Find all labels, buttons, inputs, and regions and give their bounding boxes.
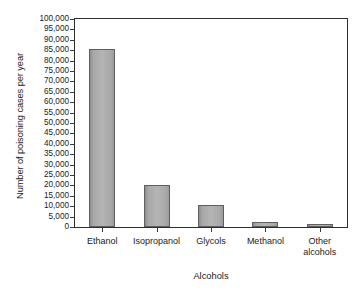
y-axis-tick-label: 100,000 <box>22 15 69 23</box>
y-axis-tick-label: 15,000 <box>22 192 69 200</box>
y-axis-tick-mark <box>70 19 74 20</box>
bars-container <box>75 19 347 227</box>
y-axis-tick-label: 25,000 <box>22 171 69 179</box>
y-axis-tick-label: 30,000 <box>22 161 69 169</box>
y-axis-tick-mark <box>70 81 74 82</box>
y-axis-tick-labels: 05,00010,00015,00020,00025,00030,00035,0… <box>22 14 69 228</box>
y-axis-tick-label: 10,000 <box>22 202 69 210</box>
y-axis-tick-mark <box>70 175 74 176</box>
y-axis-tick-label: 60,000 <box>22 98 69 106</box>
y-axis-tick-label: 80,000 <box>22 57 69 65</box>
y-axis-tick-mark <box>70 206 74 207</box>
y-axis-tick-mark <box>70 196 74 197</box>
x-axis-tick-label-line: Other <box>282 236 358 247</box>
x-axis-title: Alcohols <box>74 270 348 282</box>
y-axis-tick-label: 35,000 <box>22 150 69 158</box>
y-axis-tick-mark <box>70 50 74 51</box>
y-axis-tick-mark <box>70 113 74 114</box>
y-axis-tick-label: 20,000 <box>22 181 69 189</box>
x-axis-tick-label: Otheralcohols <box>282 236 358 258</box>
y-axis-tick-mark <box>70 71 74 72</box>
y-axis-tick-mark <box>70 133 74 134</box>
bar <box>89 49 115 227</box>
y-axis-tick-mark <box>70 92 74 93</box>
y-axis-tick-mark <box>70 144 74 145</box>
y-axis-tick-mark <box>70 154 74 155</box>
y-axis-tick-label: 50,000 <box>22 119 69 127</box>
y-axis-tick-label: 45,000 <box>22 129 69 137</box>
x-axis-tick-mark <box>265 228 266 232</box>
y-axis-tick-mark <box>70 61 74 62</box>
y-axis-tick-label: 75,000 <box>22 67 69 75</box>
y-axis-tick-label: 70,000 <box>22 77 69 85</box>
y-axis-tick-label: 40,000 <box>22 140 69 148</box>
x-axis-tick-mark <box>211 228 212 232</box>
y-axis-tick-mark <box>70 40 74 41</box>
y-axis-tick-mark <box>70 123 74 124</box>
bar <box>144 185 170 227</box>
y-axis-tick-label: 55,000 <box>22 109 69 117</box>
y-axis-tick-mark <box>70 29 74 30</box>
x-axis-tick-label-line: alcohols <box>282 247 358 258</box>
bar <box>307 224 333 227</box>
y-axis-tick-mark <box>70 227 74 228</box>
y-axis-tick-mark <box>70 102 74 103</box>
y-axis-tick-mark <box>70 185 74 186</box>
bar <box>252 222 278 227</box>
y-axis-tick-label: 5,000 <box>22 213 69 221</box>
bar <box>198 205 224 227</box>
y-axis-tick-label: 85,000 <box>22 46 69 54</box>
x-axis-tick-mark <box>157 228 158 232</box>
x-axis-tick-mark <box>102 228 103 232</box>
y-axis-tick-label: 90,000 <box>22 36 69 44</box>
y-axis-tick-label: 95,000 <box>22 25 69 33</box>
y-axis-tick-mark <box>70 165 74 166</box>
y-axis-tick-mark <box>70 217 74 218</box>
x-axis-tick-mark <box>320 228 321 232</box>
bar-chart-figure: Number of poisoning cases per year 05,00… <box>0 0 363 300</box>
y-axis-tick-label: 65,000 <box>22 88 69 96</box>
y-axis-tick-label: 0 <box>22 223 69 231</box>
